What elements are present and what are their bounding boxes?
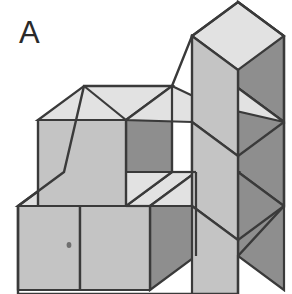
figure-label-a: A: [19, 16, 40, 50]
front-face-left-upper: [38, 120, 126, 206]
isometric-figure-panel: A: [0, 0, 292, 294]
front-face-low-left: [18, 206, 80, 290]
front-face-low-mid: [80, 206, 150, 290]
cube-stack-illustration: [0, 0, 292, 294]
paper-speck: [67, 242, 72, 248]
